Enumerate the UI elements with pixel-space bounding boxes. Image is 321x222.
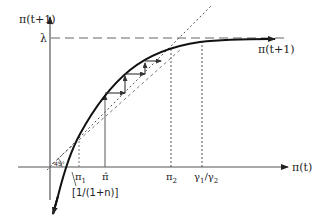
pihat-label: π̂: [102, 171, 109, 182]
pi1-label: π1: [75, 171, 86, 185]
curve-arrow-bottom: [53, 196, 58, 214]
y-axis-label: π(t+1): [19, 13, 55, 26]
cobweb-staircase: [105, 61, 161, 93]
pi2-label: π2: [166, 171, 177, 185]
curve-label: π(t+1): [258, 43, 294, 56]
phase-diagram: π(t+1) π(t) λ π(t+1) 45° π1 π̂ π2 γ1/γ2 …: [0, 0, 321, 222]
angle-label: 45°: [54, 160, 65, 167]
45-degree-line: [47, 5, 212, 170]
slope-label: [1/(1+n)]: [72, 187, 119, 198]
x-axis-label: π(t): [292, 161, 312, 174]
gamma-ratio-label: γ1/γ2: [194, 171, 218, 185]
slope-reference-line: [52, 50, 180, 164]
lambda-label: λ: [40, 32, 47, 45]
